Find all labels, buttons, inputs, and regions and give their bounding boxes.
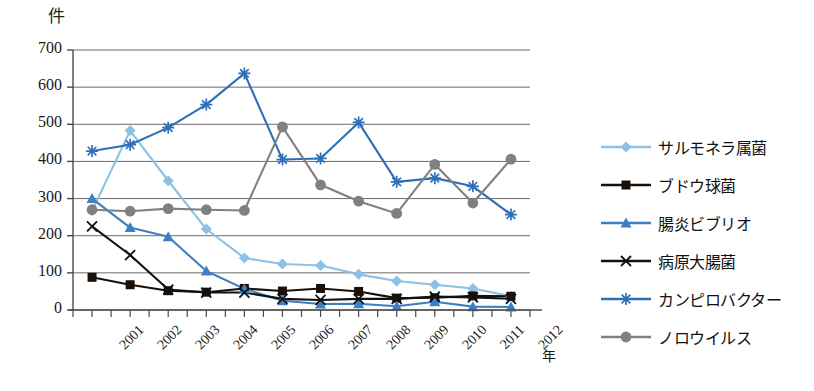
legend-label: 病原大腸菌 [658, 249, 736, 273]
data-point-marker [277, 258, 288, 269]
data-point-marker [315, 179, 326, 190]
legend-label: 腸炎ビブリオ [658, 211, 751, 235]
data-point-marker [125, 250, 135, 260]
data-point-marker [429, 172, 441, 184]
y-axis-tick-label: 200 [16, 225, 62, 243]
data-point-marker [88, 273, 97, 282]
data-point-marker [238, 67, 250, 79]
y-axis-tick-label: 500 [16, 113, 62, 131]
legend-item[interactable]: サルモネラ属菌 [600, 128, 814, 166]
data-point-marker [124, 139, 136, 151]
data-point-marker [278, 287, 287, 296]
data-point-marker [391, 208, 402, 219]
legend-item[interactable]: 腸炎ビブリオ [600, 204, 814, 242]
y-axis-tick-label: 300 [16, 188, 62, 206]
data-point-marker [315, 152, 327, 164]
data-point-marker [506, 154, 517, 165]
data-point-marker [429, 279, 440, 290]
legend-label: カンピロバクター [658, 287, 781, 311]
y-axis-tick-label: 400 [16, 150, 62, 168]
data-point-marker [353, 196, 364, 207]
data-point-marker [125, 206, 136, 217]
data-point-marker [87, 221, 97, 231]
data-point-marker [239, 205, 250, 216]
data-point-marker [391, 176, 403, 188]
data-point-marker [315, 260, 326, 271]
legend-item[interactable]: 病原大腸菌 [600, 242, 814, 280]
data-point-marker [126, 280, 135, 289]
legend-marker-icon [600, 290, 652, 308]
data-point-marker [316, 284, 325, 293]
data-point-marker [429, 159, 440, 170]
line-chart: 件 0100200300400500600700 200120022003200… [0, 0, 814, 391]
data-point-marker [621, 332, 632, 343]
legend-item[interactable]: ノロウイルス [600, 318, 814, 356]
data-point-marker [163, 203, 174, 214]
series-line [92, 277, 511, 298]
y-axis-tick-label: 700 [16, 39, 62, 57]
data-point-marker [200, 99, 212, 111]
data-point-marker [276, 154, 288, 166]
y-axis-tick-label: 100 [16, 262, 62, 280]
data-point-marker [622, 181, 631, 190]
legend-marker-icon [600, 252, 652, 270]
data-point-marker [353, 116, 365, 128]
chart-legend: サルモネラ属菌ブドウ球菌腸炎ビブリオ病原大腸菌カンピロバクターノロウイルス [600, 128, 814, 356]
legend-label: ノロウイルス [658, 325, 751, 349]
data-point-marker [277, 121, 288, 132]
legend-marker-icon [600, 328, 652, 346]
data-point-marker [621, 142, 632, 153]
legend-item[interactable]: カンピロバクター [600, 280, 814, 318]
data-point-marker [505, 209, 517, 221]
series-line [92, 73, 511, 214]
data-point-marker [201, 204, 212, 215]
data-point-marker [353, 269, 364, 280]
legend-marker-icon [600, 214, 652, 232]
y-axis-tick-label: 600 [16, 76, 62, 94]
data-point-marker [87, 204, 98, 215]
y-axis-tick-label: 0 [16, 299, 62, 317]
data-point-marker [86, 145, 98, 157]
data-point-marker [467, 180, 479, 192]
x-axis-unit-label: 年 [542, 345, 556, 365]
data-point-marker [162, 122, 174, 134]
legend-item[interactable]: ブドウ球菌 [600, 166, 814, 204]
legend-label: サルモネラ属菌 [658, 135, 767, 159]
legend-marker-icon [600, 176, 652, 194]
data-point-marker [468, 291, 477, 300]
series-line [92, 127, 511, 214]
data-point-marker [467, 198, 478, 209]
legend-label: ブドウ球菌 [658, 173, 736, 197]
legend-marker-icon [600, 138, 652, 156]
data-point-marker [620, 293, 632, 305]
data-point-marker [391, 276, 402, 287]
